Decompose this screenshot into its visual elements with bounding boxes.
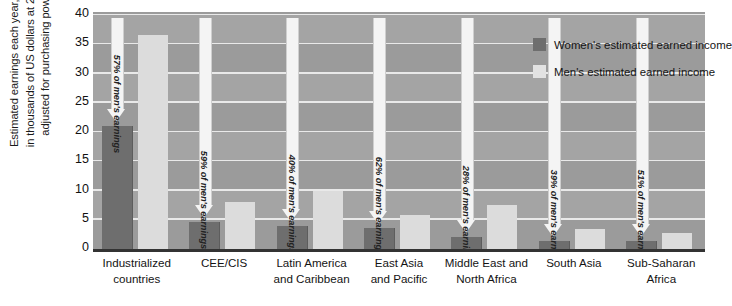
legend-swatch-men-icon [533,65,546,78]
y-axis-title-line-2: in thousands of US dollars at 2003 price… [22,0,38,159]
bar-group: 59% of men's earnings [180,12,267,249]
annotation-label: 62% of men's earnings [374,157,384,252]
bar-men [575,229,605,249]
legend-item-women: Women's estimated earned income [533,38,732,51]
x-tick-label: Sub-SaharanAfrica [604,255,719,286]
bar-group: 62% of men's earnings [355,12,442,249]
annotation-label: 57% of men's earnings [112,55,122,153]
bar-men [400,215,430,249]
annotation-arrow: 59% of men's earnings [195,18,214,218]
legend-swatch-women-icon [533,38,546,51]
x-tick-label-line-1: Sub-Saharan [604,255,719,271]
y-tick-40: 40 [63,6,89,20]
bar-group: 40% of men's earnings [268,12,355,249]
annotation-arrow: 62% of men's earnings [369,18,388,224]
annotation-label: 51% of men's earnings [636,170,646,252]
annotation-arrow: 40% of men's earnings [282,18,301,222]
legend-label-men: Men's estimated earned income [554,66,715,78]
bar-men [225,202,255,249]
y-tick-5: 5 [63,211,89,225]
bar-men [662,233,692,249]
x-tick-label-line-2: North Africa [429,271,544,287]
x-tick-label-line-2: Africa [604,271,719,287]
bar-men [313,191,343,250]
annotation-label: 39% of men's earnings [549,170,559,252]
bar-men [138,35,168,249]
x-axis-tick-labels: IndustrializedcountriesCEE/CISLatin Amer… [93,255,705,305]
bar-men [487,205,517,249]
legend: Women's estimated earned income Men's es… [533,38,732,92]
annotation-label: 40% of men's earnings [287,154,297,252]
y-tick-0: 0 [63,240,89,254]
y-tick-30: 30 [63,65,89,79]
bar-group: 57% of men's earnings [93,12,180,249]
y-tick-25: 25 [63,94,89,108]
y-tick-15: 15 [63,152,89,166]
y-tick-35: 35 [63,35,89,49]
y-axis-title-line-3: adjusted for purchasing power parity [38,0,54,159]
annotation-arrow: 57% of men's earnings [107,18,126,122]
bar-group: 28% of men's earnings [443,12,530,249]
y-axis-title-wrap: Estimated earnings each year, measured i… [0,0,60,250]
x-tick-label-line-2: countries [79,271,194,287]
annotation-label: 59% of men's earnings [199,150,209,248]
y-axis-title-line-1: Estimated earnings each year, measured [7,0,23,159]
y-tick-20: 20 [63,123,89,137]
legend-label-women: Women's estimated earned income [554,39,732,51]
y-axis-title: Estimated earnings each year, measured i… [7,0,54,159]
annotation-arrow: 28% of men's earnings [457,18,476,233]
annotation-label: 28% of men's earnings [461,166,471,252]
legend-item-men: Men's estimated earned income [533,65,732,78]
y-tick-10: 10 [63,182,89,196]
